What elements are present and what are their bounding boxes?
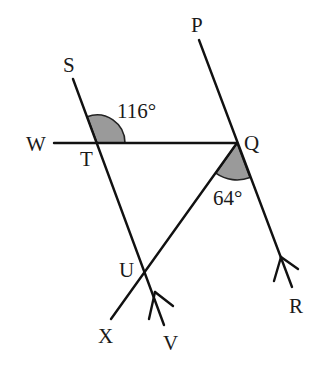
- angle-label-64: 64°: [213, 186, 242, 210]
- label-w: W: [26, 132, 46, 156]
- label-t: T: [80, 147, 93, 171]
- label-s: S: [63, 53, 75, 77]
- angle-label-116: 116°: [117, 99, 156, 123]
- geometry-diagram: S W T P Q U X V R 116° 64°: [0, 0, 314, 367]
- label-r: R: [289, 294, 303, 318]
- label-q: Q: [244, 131, 259, 155]
- line-pr: [199, 40, 292, 287]
- label-p: P: [191, 13, 203, 37]
- label-v: V: [163, 331, 178, 355]
- label-x: X: [98, 324, 113, 348]
- label-u: U: [119, 258, 134, 282]
